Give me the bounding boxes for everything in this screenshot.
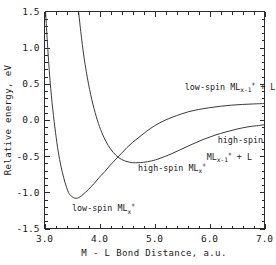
y-tick-label: -1.0 — [17, 187, 40, 198]
y-tick-label: -1.5 — [17, 223, 40, 234]
y-tick-label: -0.5 — [17, 151, 40, 162]
chart-background — [0, 0, 276, 265]
chart-figure: 3.04.05.06.07.0-1.5-1.0-0.50.00.51.01.5 … — [0, 0, 276, 265]
x-tick-label: 3.0 — [36, 233, 53, 244]
y-axis-title: Relative energy, eV — [3, 65, 13, 176]
x-axis-title: M - L Bond Distance, a.u. — [81, 248, 226, 258]
annotation-low-spin-bound: low-spin MLx+ — [72, 201, 135, 214]
y-tick-label: 1.0 — [22, 42, 39, 53]
x-tick-label: 4.0 — [91, 233, 108, 244]
x-tick-label: 6.0 — [201, 233, 218, 244]
x-tick-label: 7.0 — [256, 233, 273, 244]
y-tick-label: 0.5 — [22, 78, 39, 89]
annotation-low-spin-dissociated: low-spin MLx-1+ + L — [185, 80, 276, 93]
potential-energy-curve-plot: 3.04.05.06.07.0-1.5-1.0-0.50.00.51.01.5 … — [0, 0, 276, 265]
annotation-high-spin-dissociated-line1: high-spin — [218, 135, 263, 145]
y-tick-label: 1.5 — [22, 6, 39, 17]
y-tick-label: 0.0 — [22, 114, 39, 125]
x-tick-label: 5.0 — [146, 233, 163, 244]
annotation-high-spin-bound: high-spin MLx+ — [138, 161, 206, 174]
